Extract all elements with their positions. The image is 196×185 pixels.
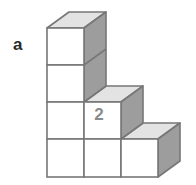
front-face-c0-r2 xyxy=(47,65,84,102)
front-face-c0-r3 xyxy=(47,28,84,65)
front-face-c1-r0 xyxy=(84,139,121,177)
panel-label-a: a xyxy=(13,36,22,53)
isometric-cube-figure: a 2 xyxy=(0,0,196,185)
front-face-c0-r1 xyxy=(47,102,84,139)
front-face-c0-r0 xyxy=(47,139,84,177)
isometric-solid-drawing xyxy=(0,0,196,185)
front-face-c2-r0 xyxy=(121,139,158,177)
cube-face-number-label: 2 xyxy=(88,106,110,123)
